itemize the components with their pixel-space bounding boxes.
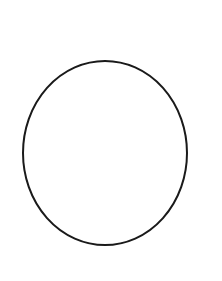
drawing-canvas	[0, 0, 222, 281]
ellipse-outline	[23, 61, 187, 245]
drawing-svg	[0, 0, 222, 281]
